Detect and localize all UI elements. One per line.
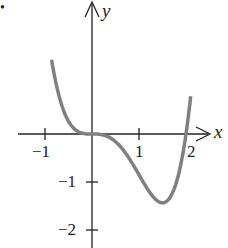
chart xyxy=(0,0,228,248)
x-label: x xyxy=(214,121,222,143)
y-tick-label: −1 xyxy=(58,172,76,192)
x-tick-label: −1 xyxy=(32,142,50,162)
x-tick-label: 2 xyxy=(187,142,196,162)
x-tick-label: 1 xyxy=(135,142,144,162)
y-tick-label: −2 xyxy=(58,220,76,240)
y-label: y xyxy=(102,0,110,22)
